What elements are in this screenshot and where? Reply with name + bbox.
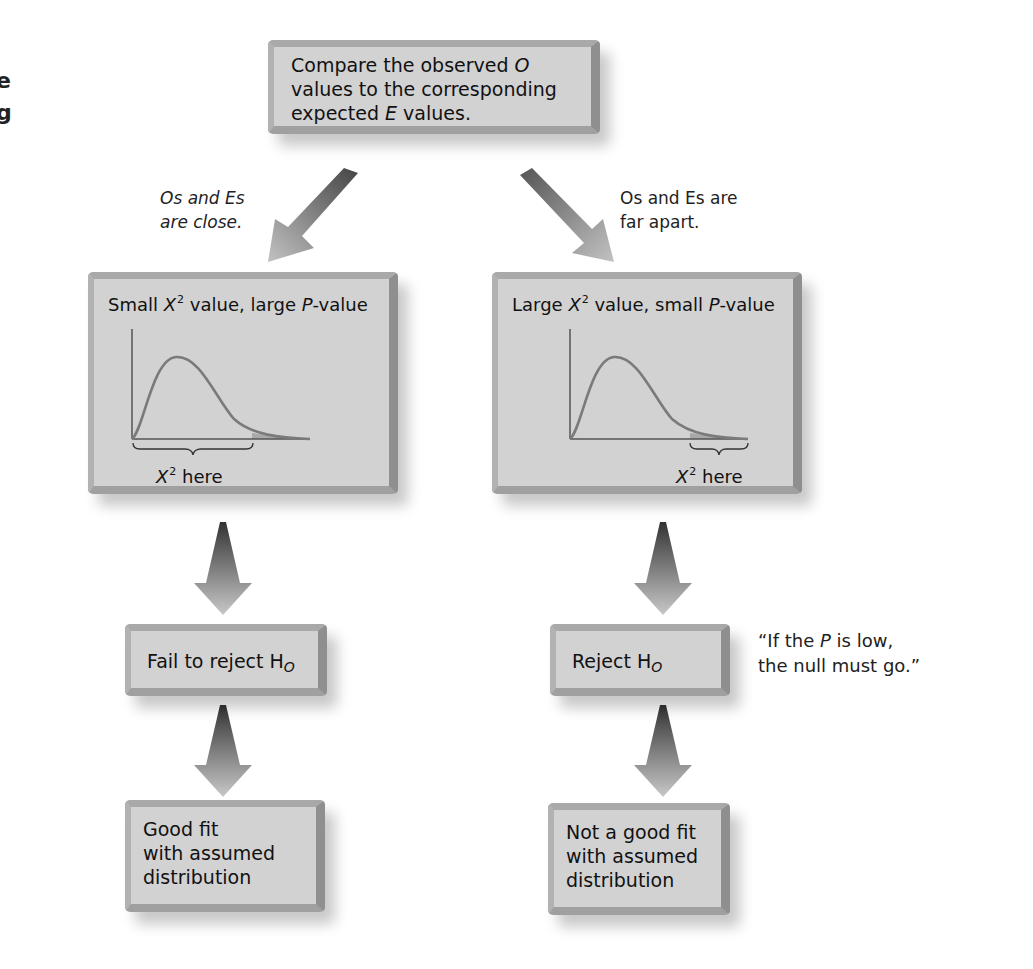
not-good-fit-line-3: distribution [566, 868, 674, 893]
compare-line-1: Compare the observed O [291, 53, 530, 78]
compare-line-2: values to the corresponding [291, 77, 557, 102]
good-fit-line-2: with assumed [143, 841, 275, 866]
chi-square-curve-icon [130, 329, 330, 459]
panel-title: Small X2 value, large P-value [108, 287, 368, 317]
cropped-text-fragment: e [0, 68, 11, 93]
mnemonic-quote: “If the P is low, the null must go.” [758, 628, 920, 678]
branch-label-close: Os and Es are close. [160, 186, 245, 234]
branch-label-far-apart: Os and Es are far apart. [620, 186, 738, 234]
chi-square-curve-icon [568, 329, 768, 459]
fail-to-reject-label: Fail to reject HO [147, 649, 295, 680]
chi-square-here-label: X2 here [676, 459, 743, 489]
not-good-fit-line-1: Not a good fit [566, 820, 696, 845]
not-good-fit-box: Not a good fit with assumed distribution [548, 803, 730, 915]
good-fit-box: Good fit with assumed distribution [125, 800, 325, 912]
good-fit-line-1: Good fit [143, 817, 219, 842]
compare-line-3: expected E values. [291, 101, 471, 126]
fail-to-reject-box: Fail to reject HO [125, 624, 327, 696]
compare-box: Compare the observed O values to the cor… [268, 40, 600, 134]
not-good-fit-line-2: with assumed [566, 844, 698, 869]
cropped-text-fragment: g [0, 100, 12, 125]
reject-box: Reject HO [550, 624, 730, 696]
good-fit-line-3: distribution [143, 865, 251, 890]
small-chi-square-panel: Small X2 value, large P-value X2 here [88, 272, 398, 494]
panel-title: Large X2 value, small P-value [512, 287, 775, 317]
large-chi-square-panel: Large X2 value, small P-value X2 here [492, 272, 802, 494]
chi-square-here-label: X2 here [156, 459, 223, 489]
reject-label: Reject HO [572, 649, 662, 680]
